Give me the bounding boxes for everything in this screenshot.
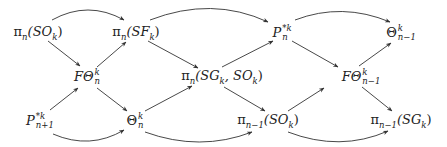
- arrow-piSGSO-to-Pnk: [222, 41, 273, 67]
- node-Theta-n-k: Θkn: [126, 112, 143, 130]
- arrow-Pnk-to-Thnm1: [295, 11, 390, 22]
- arrow-piSF-to-Pnk: [150, 8, 268, 22]
- node-pi-n-SO-k: πn(SOk): [14, 25, 63, 41]
- arrow-piSOm1-to-piSGm1: [288, 131, 388, 142]
- arrow-piSO-to-FThn: [48, 41, 80, 66]
- node-Theta-n-1-k: Θkn−1: [386, 24, 416, 42]
- arrow-FThnm1-to-Thnm1: [359, 43, 391, 66]
- commutative-diagram: πn(SOk) πn(SFk) P*kn Θkn−1 FΘkn πn(SGk, …: [0, 0, 447, 147]
- node-pi-n-SG-k-SO-k: πn(SGk, SOk): [181, 69, 263, 85]
- arrow-Pn1k-to-Thn: [53, 130, 124, 141]
- node-F-Theta-n-k: FΘkn: [74, 68, 100, 86]
- arrow-piSF-to-piSGSO: [148, 41, 198, 68]
- arrow-FThnm1-to-piSGm1: [362, 87, 392, 111]
- node-pi-n-SF-k: πn(SFk): [112, 25, 159, 41]
- node-pi-n-1-SG-k: πn−1(SGk): [370, 113, 431, 129]
- arrow-FThn-to-Thn: [97, 88, 127, 111]
- node-P-n+1-star-k: P*kn+1: [26, 112, 54, 130]
- arrow-piSGSO-to-piSOm1: [224, 87, 265, 111]
- arrow-Thn-to-piSGSO: [145, 86, 192, 111]
- node-P-n-star-k: P*kn: [272, 24, 291, 42]
- arrow-piSO-to-piSF: [52, 10, 124, 20]
- arrow-piSOm1-to-FThnm1: [288, 88, 324, 111]
- arrow-FThn-to-piSF: [97, 42, 126, 67]
- arrow-Pn1k-to-FThn: [50, 88, 78, 110]
- node-F-Theta-n-1-k: FΘkn−1: [342, 68, 381, 86]
- arrow-Pnk-to-FThnm1: [292, 41, 338, 67]
- node-pi-n-1-SO-k: πn−1(SOk): [237, 113, 298, 129]
- arrow-Thn-to-piSOm1: [145, 132, 252, 142]
